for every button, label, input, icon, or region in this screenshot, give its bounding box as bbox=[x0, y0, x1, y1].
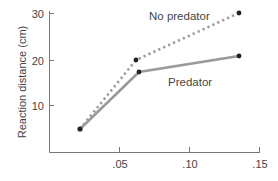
x-tick-label-10: .10 bbox=[182, 158, 197, 170]
series-label-no-predator: No predator bbox=[149, 10, 210, 22]
series-no-predator-line bbox=[80, 13, 239, 129]
data-point-predator-mid bbox=[137, 70, 142, 75]
x-tick-label-15: .15 bbox=[252, 158, 267, 170]
series-predator-line bbox=[80, 56, 239, 129]
x-tick-label-05: .05 bbox=[112, 158, 127, 170]
data-point-no-predator-mid bbox=[134, 58, 139, 63]
y-axis: 30 20 10 bbox=[32, 8, 54, 153]
data-point-no-predator-end bbox=[237, 11, 242, 16]
data-point-start bbox=[77, 126, 82, 131]
data-point-predator-end bbox=[237, 54, 242, 59]
series-label-predator: Predator bbox=[168, 76, 212, 88]
y-tick-label-10: 10 bbox=[32, 100, 44, 112]
x-axis: .05 .10 .15 bbox=[50, 147, 268, 170]
y-tick-label-30: 30 bbox=[32, 8, 44, 20]
line-chart: 30 20 10 .05 .10 .15 Reaction distance (… bbox=[0, 0, 278, 181]
y-axis-title: Reaction distance (cm) bbox=[16, 26, 28, 139]
y-tick-label-20: 20 bbox=[32, 55, 44, 67]
